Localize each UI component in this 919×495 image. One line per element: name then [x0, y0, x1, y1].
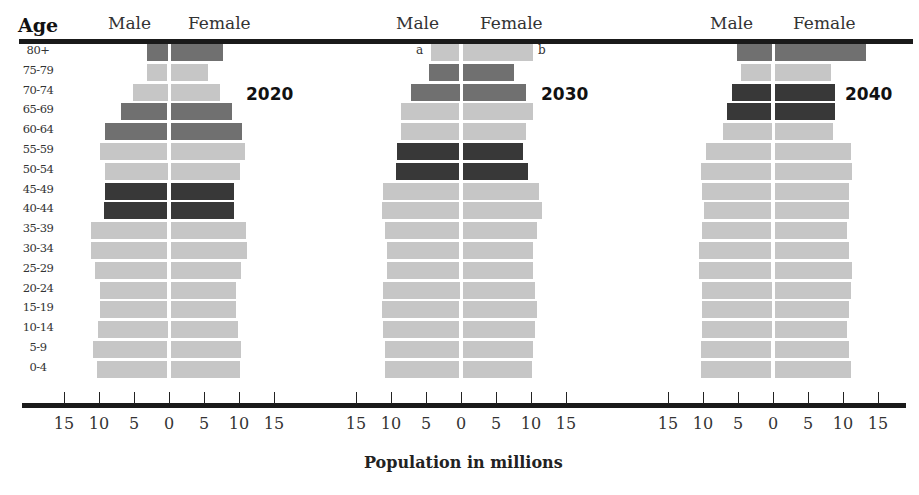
x-tick-label: 15 [264, 414, 284, 433]
x-tick-label: 10 [381, 414, 401, 433]
x-tick [773, 392, 774, 404]
male-bar [727, 103, 771, 120]
female-bar [463, 123, 526, 140]
age-label: 20-24 [18, 281, 58, 295]
x-tick-label: 15 [658, 414, 678, 433]
male-bar [100, 282, 168, 299]
male-bar [97, 361, 168, 378]
female-bar [171, 183, 235, 200]
male-bar [385, 341, 460, 358]
x-tick [878, 392, 879, 404]
male-bar [702, 321, 772, 338]
female-bar [463, 202, 542, 219]
x-tick-label: 5 [803, 414, 813, 433]
x-tick [391, 392, 392, 404]
x-tick [99, 392, 100, 404]
age-label: 30-34 [18, 241, 58, 255]
year-label-2020: 2020 [246, 84, 293, 104]
female-bar [775, 44, 866, 61]
x-tick-label: 15 [346, 414, 366, 433]
male-bar [105, 123, 167, 140]
male-bar [723, 123, 772, 140]
male-bar [701, 163, 772, 180]
x-tick-label: 10 [229, 414, 249, 433]
female-bar [463, 242, 533, 259]
female-bar [775, 84, 836, 101]
female-bar [775, 64, 831, 81]
female-bar [463, 301, 537, 318]
male-bar [401, 103, 459, 120]
x-tick [134, 392, 135, 404]
female-bar [463, 361, 532, 378]
male-bar [737, 44, 772, 61]
female-bar [171, 282, 237, 299]
female-bar [775, 341, 849, 358]
male-bar [397, 143, 459, 160]
x-tick-label: 10 [833, 414, 853, 433]
x-tick [426, 392, 427, 404]
male-bar [100, 301, 167, 318]
male-bar [741, 64, 771, 81]
age-axis-title: Age [18, 14, 58, 36]
male-bar [396, 163, 460, 180]
x-tick [169, 392, 170, 404]
male-bar [702, 222, 771, 239]
male-bar [91, 222, 167, 239]
x-tick-label: 5 [421, 414, 431, 433]
age-label: 55-59 [18, 142, 58, 156]
female-bar [463, 103, 534, 120]
female-bar [171, 103, 233, 120]
female-bar [171, 64, 209, 81]
female-bar [463, 222, 537, 239]
female-bar [775, 202, 849, 219]
male-bar [105, 183, 167, 200]
x-tick [843, 392, 844, 404]
x-tick-label: 10 [89, 414, 109, 433]
male-bar [147, 64, 167, 81]
male-bar [429, 64, 460, 81]
male-header-2020: Male [108, 13, 151, 33]
female-bar [171, 44, 224, 61]
age-label: 75-79 [18, 63, 58, 77]
female-bar [775, 143, 851, 160]
x-tick [496, 392, 497, 404]
female-bar [775, 163, 853, 180]
x-tick [808, 392, 809, 404]
x-tick-label: 5 [733, 414, 743, 433]
age-label: 80+ [18, 43, 58, 57]
female-bar [171, 321, 239, 338]
male-bar [701, 361, 772, 378]
male-bar [100, 143, 168, 160]
age-label: 10-14 [18, 320, 58, 334]
x-tick-label: 0 [164, 414, 174, 433]
x-tick-label: 10 [521, 414, 541, 433]
x-tick [274, 392, 275, 404]
female-bar [171, 84, 221, 101]
marker-b: b [538, 43, 546, 57]
x-tick [461, 392, 462, 404]
female-bar [171, 361, 240, 378]
female-bar [775, 242, 850, 259]
male-bar [95, 262, 167, 279]
x-tick-label: 5 [199, 414, 209, 433]
female-bar [775, 222, 847, 239]
female-bar [775, 262, 853, 279]
x-tick [566, 392, 567, 404]
male-bar [385, 222, 460, 239]
age-label: 40-44 [18, 201, 58, 215]
female-bar [775, 321, 848, 338]
female-header-2030: Female [480, 13, 543, 33]
female-bar [463, 64, 514, 81]
male-bar [732, 84, 772, 101]
male-bar [382, 301, 460, 318]
age-label: 25-29 [18, 261, 58, 275]
x-tick [64, 392, 65, 404]
male-bar [699, 242, 771, 259]
male-bar [699, 262, 771, 279]
male-bar [401, 123, 460, 140]
female-bar [171, 242, 247, 259]
male-bar [133, 84, 168, 101]
x-tick [356, 392, 357, 404]
male-bar [383, 321, 459, 338]
x-tick-label: 15 [556, 414, 576, 433]
